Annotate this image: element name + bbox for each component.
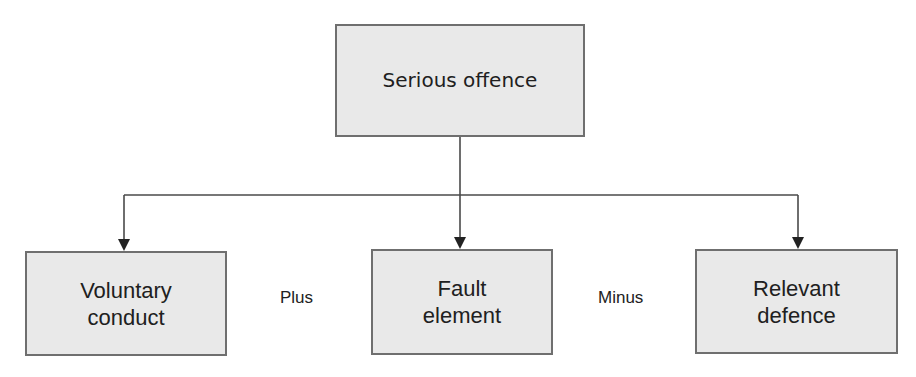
node-serious-offence: Serious offence — [335, 24, 585, 137]
node-label: Serious offence — [383, 67, 538, 94]
node-label: Voluntary conduct — [80, 277, 172, 331]
arrowhead-left-icon — [118, 239, 130, 251]
operator-plus: Plus — [280, 288, 313, 308]
arrowhead-right-icon — [792, 237, 804, 249]
node-relevant-defence: Relevant defence — [695, 249, 898, 354]
node-voluntary-conduct: Voluntary conduct — [25, 251, 227, 356]
diagram-canvas: Serious offence Voluntary conduct Fault … — [0, 0, 916, 377]
node-label: Relevant defence — [753, 275, 840, 329]
node-fault-element: Fault element — [371, 249, 553, 355]
operator-minus: Minus — [598, 288, 643, 308]
node-label: Fault element — [423, 275, 501, 329]
arrowhead-middle-icon — [454, 237, 466, 249]
